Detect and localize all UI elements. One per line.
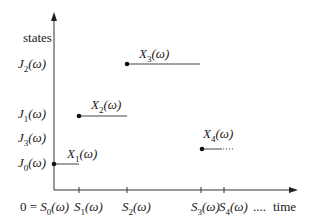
state-label-J0: J0(ω) xyxy=(18,156,46,173)
time-label-S2: S2(ω) xyxy=(122,200,151,217)
time-ellipsis: .... xyxy=(253,200,266,213)
state-label-J2: J2(ω) xyxy=(18,57,46,74)
segment-X4 xyxy=(200,147,233,152)
segment-label-X3: X3(ω) xyxy=(139,47,169,64)
y-axis-label: states xyxy=(23,31,52,44)
y-axis-arrow-icon xyxy=(51,12,57,21)
segment-label-X4: X4(ω) xyxy=(203,127,233,144)
x-axis-arrow-icon xyxy=(289,187,298,193)
x-axis-label: time xyxy=(273,200,296,213)
time-label-S3: S3(ω) xyxy=(191,200,220,217)
time-label-S4: S4(ω) xyxy=(219,200,248,217)
state-label-J3: J3(ω) xyxy=(18,131,46,148)
state-label-J1: J1(ω) xyxy=(18,107,46,124)
time-label-S1: S1(ω) xyxy=(74,200,103,217)
segment-label-X2: X2(ω) xyxy=(91,98,121,115)
segment-label-X1: X1(ω) xyxy=(67,147,97,164)
time-label-S0: 0 = S0(ω) xyxy=(20,200,69,217)
